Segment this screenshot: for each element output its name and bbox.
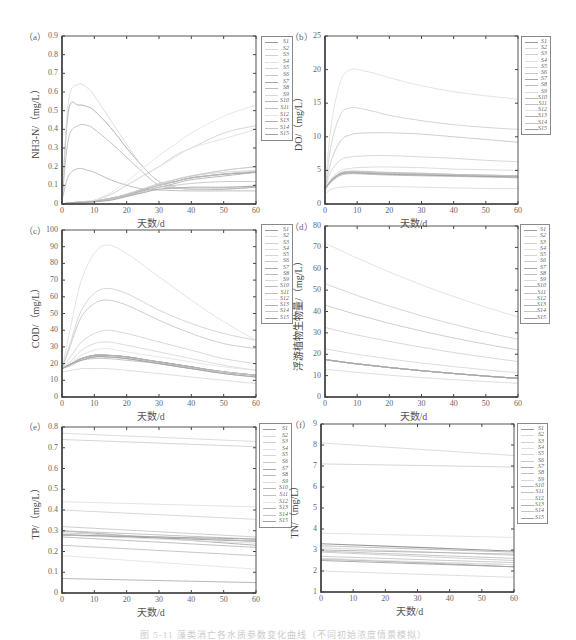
legend-swatch: [525, 79, 538, 80]
series-line-s9: [62, 368, 256, 383]
x-tick-label: 50: [476, 594, 488, 603]
legend: S1S2S3S4S5S6S7S8S9S10S11S12S13S14S15: [520, 224, 550, 324]
legend-swatch: [521, 448, 534, 449]
legend-swatch: [265, 121, 278, 122]
x-tick-label: 30: [412, 594, 424, 603]
legend-swatch: [263, 436, 276, 437]
legend-swatch: [263, 488, 276, 489]
series-line-s10: [325, 360, 518, 379]
legend-swatch: [525, 73, 538, 74]
axes-frame: [325, 36, 518, 204]
panel-e: 010203040506000.10.20.30.40.50.60.70.8（e…: [0, 398, 288, 613]
x-tick-label: 20: [121, 595, 133, 604]
legend-swatch: [525, 92, 538, 93]
series-line-s4: [62, 245, 256, 369]
series-line-s9: [325, 186, 518, 193]
legend-swatch: [525, 110, 538, 111]
legend-swatch: [265, 49, 278, 50]
legend-swatch: [265, 88, 278, 89]
legend-swatch: [263, 449, 276, 450]
legend-swatch: [525, 116, 538, 117]
legend-swatch: [524, 243, 537, 244]
legend-swatch: [525, 61, 538, 62]
legend-swatch: [521, 505, 534, 506]
series-line-s4: [325, 243, 518, 317]
legend-swatch: [524, 255, 537, 256]
axes-frame: [325, 226, 518, 397]
legend-item: S15: [522, 126, 550, 132]
legend-swatch: [265, 55, 278, 56]
legend-swatch: [265, 305, 278, 306]
axes-frame: [62, 427, 256, 593]
legend-swatch: [521, 518, 534, 519]
panel-label: （a）: [24, 30, 46, 43]
legend-swatch: [521, 435, 534, 436]
y-tick-label: 1: [297, 587, 317, 596]
legend-item: S15: [518, 515, 547, 521]
legend-swatch: [265, 68, 278, 69]
x-axis-label: 天数/d: [396, 603, 424, 618]
legend-swatch: [521, 467, 534, 468]
legend-swatch: [521, 492, 534, 493]
series-line-s14: [325, 360, 518, 379]
legend-swatch: [525, 129, 538, 130]
x-tick-label: 10: [347, 594, 359, 603]
legend-swatch: [521, 486, 534, 487]
legend-label: S15: [535, 514, 544, 521]
legend-swatch: [265, 249, 278, 250]
legend-swatch: [524, 318, 537, 319]
legend-swatch: [265, 108, 278, 109]
legend-swatch: [524, 274, 537, 275]
legend-swatch: [263, 515, 276, 516]
figure-caption: 图 5-11 藻类消亡各水质参数变化曲线（不同初始浓度情景模拟）: [140, 628, 427, 640]
legend-swatch: [263, 442, 276, 443]
legend-swatch: [263, 521, 276, 522]
legend-swatch: [263, 495, 276, 496]
panel-label: （f）: [290, 418, 311, 431]
legend-swatch: [525, 98, 538, 99]
legend-swatch: [524, 311, 537, 312]
x-tick-label: 60: [250, 595, 262, 604]
legend-swatch: [525, 67, 538, 68]
x-tick-label: 50: [218, 595, 230, 604]
series-line-s7: [325, 360, 518, 379]
legend-swatch: [524, 249, 537, 250]
series-line-s3: [321, 464, 514, 467]
x-tick-label: 60: [508, 594, 520, 603]
y-axis-label: NH3-N/（mg/L）: [27, 47, 42, 197]
axes-frame: [62, 36, 256, 204]
legend-swatch: [265, 75, 278, 76]
legend-swatch: [265, 274, 278, 275]
series-line-s2: [325, 349, 518, 373]
legend-swatch: [265, 299, 278, 300]
legend-swatch: [263, 502, 276, 503]
legend: S1S2S3S4S5S6S7S8S9S10S11S12S13S14S15: [521, 36, 551, 135]
panel-b: 01020304050600510152025（b）DO/（mg/L）天数/dS…: [288, 0, 576, 215]
series-line-s4: [62, 502, 256, 507]
panel-c: 01020304050600102030405060708090100（c）CO…: [0, 200, 288, 410]
legend-swatch: [524, 299, 537, 300]
legend-swatch: [263, 469, 276, 470]
legend-swatch: [263, 482, 276, 483]
legend-swatch: [524, 268, 537, 269]
series-line-s9: [321, 571, 514, 577]
legend-swatch: [263, 429, 276, 430]
legend-swatch: [265, 230, 278, 231]
legend-swatch: [263, 508, 276, 509]
series-line-s12: [325, 360, 518, 379]
legend-swatch: [524, 305, 537, 306]
legend-swatch: [521, 454, 534, 455]
series-line-s5: [62, 510, 256, 519]
panel-label: （d）: [290, 220, 313, 233]
x-tick-label: 10: [88, 595, 100, 604]
legend-swatch: [521, 442, 534, 443]
series-line-s12: [62, 556, 256, 569]
legend-swatch: [524, 236, 537, 237]
legend-swatch: [265, 101, 278, 102]
legend-swatch: [525, 85, 538, 86]
series-line-s8: [325, 360, 518, 379]
legend-swatch: [263, 475, 276, 476]
legend-swatch: [265, 82, 278, 83]
legend-swatch: [521, 511, 534, 512]
y-axis-label: DO/（mg/L）: [290, 47, 305, 197]
